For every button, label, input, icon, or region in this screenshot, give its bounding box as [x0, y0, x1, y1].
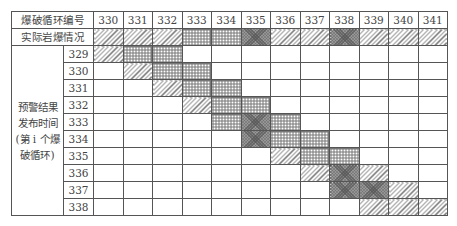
prediction-cell-empty — [359, 131, 389, 148]
row-label: 332 — [64, 97, 94, 114]
prediction-cell-square-grid — [212, 97, 242, 114]
prediction-cell-empty — [389, 148, 419, 165]
prediction-cell-empty — [359, 80, 389, 97]
prediction-cell-square-grid — [300, 131, 330, 148]
prediction-cell-empty — [418, 165, 448, 182]
prediction-cell-empty — [153, 97, 183, 114]
prediction-cell-empty — [330, 114, 360, 131]
prediction-row: 330 — [12, 63, 448, 80]
prediction-cell-empty — [330, 97, 360, 114]
column-header: 337 — [300, 12, 330, 29]
prediction-cell-dense-checker — [330, 165, 360, 182]
prediction-cell-empty — [182, 46, 212, 63]
prediction-cell-empty — [241, 63, 271, 80]
prediction-cell-dense-checker — [330, 182, 360, 199]
prediction-cell-empty — [271, 182, 301, 199]
prediction-cell-empty — [359, 46, 389, 63]
prediction-cell-empty — [94, 182, 124, 199]
prediction-cell-empty — [241, 199, 271, 216]
prediction-cell-dense-checker — [359, 182, 389, 199]
prediction-cell-empty — [271, 97, 301, 114]
rockburst-warning-table: 爆破循环编号 330331332333334335336337338339340… — [11, 11, 448, 216]
prediction-cell-empty — [123, 165, 153, 182]
column-header: 339 — [359, 12, 389, 29]
actual-cell-diagonal-hatch — [94, 29, 124, 46]
prediction-cell-empty — [389, 131, 419, 148]
prediction-cell-empty — [418, 63, 448, 80]
prediction-cell-empty — [418, 97, 448, 114]
column-header: 335 — [241, 12, 271, 29]
prediction-cell-dense-checker — [241, 131, 271, 148]
side-label-line: 预警结果 — [12, 99, 63, 115]
prediction-cell-empty — [300, 199, 330, 216]
prediction-cell-empty — [330, 199, 360, 216]
actual-cell-diagonal-hatch — [153, 29, 183, 46]
prediction-cell-diagonal-hatch — [418, 199, 448, 216]
prediction-cell-square-grid — [123, 46, 153, 63]
row-label: 331 — [64, 80, 94, 97]
prediction-cell-empty — [94, 80, 124, 97]
prediction-row: 332 — [12, 97, 448, 114]
prediction-cell-empty — [182, 165, 212, 182]
prediction-cell-empty — [94, 97, 124, 114]
prediction-row: 334 — [12, 131, 448, 148]
prediction-cell-empty — [389, 97, 419, 114]
prediction-cell-square-grid — [300, 148, 330, 165]
column-header: 338 — [330, 12, 360, 29]
prediction-cell-empty — [182, 148, 212, 165]
prediction-cell-diagonal-hatch — [359, 199, 389, 216]
prediction-cell-empty — [212, 131, 242, 148]
prediction-cell-diagonal-hatch — [300, 165, 330, 182]
prediction-cell-empty — [300, 46, 330, 63]
prediction-cell-empty — [359, 114, 389, 131]
prediction-cell-empty — [182, 199, 212, 216]
prediction-cell-square-grid — [330, 148, 360, 165]
prediction-cell-empty — [271, 165, 301, 182]
prediction-cell-empty — [123, 131, 153, 148]
prediction-cell-empty — [241, 148, 271, 165]
prediction-cell-empty — [241, 182, 271, 199]
side-label-line: 发布时间 — [12, 115, 63, 131]
prediction-cell-empty — [212, 199, 242, 216]
prediction-cell-empty — [271, 80, 301, 97]
column-header: 334 — [212, 12, 242, 29]
row-label: 333 — [64, 114, 94, 131]
actual-cell-dense-checker — [241, 29, 271, 46]
prediction-cell-diagonal-hatch — [153, 80, 183, 97]
prediction-cell-square-grid — [212, 80, 242, 97]
actual-label: 实际岩爆情况 — [12, 29, 94, 46]
prediction-cell-empty — [330, 63, 360, 80]
prediction-cell-square-grid — [182, 63, 212, 80]
row-label: 336 — [64, 165, 94, 182]
prediction-cell-empty — [123, 148, 153, 165]
prediction-cell-dense-checker — [241, 114, 271, 131]
actual-cell-diagonal-hatch — [418, 29, 448, 46]
prediction-cell-empty — [94, 131, 124, 148]
prediction-cell-empty — [182, 182, 212, 199]
side-label: 预警结果发布时间(第 i 个爆破循环) — [12, 46, 64, 216]
prediction-row: 338 — [12, 199, 448, 216]
prediction-cell-empty — [123, 97, 153, 114]
column-header: 332 — [153, 12, 183, 29]
prediction-cell-empty — [212, 46, 242, 63]
column-header: 333 — [182, 12, 212, 29]
prediction-cell-empty — [153, 131, 183, 148]
prediction-cell-empty — [300, 182, 330, 199]
prediction-cell-empty — [241, 46, 271, 63]
side-label-line: 破循环) — [12, 147, 63, 163]
prediction-cell-empty — [182, 131, 212, 148]
prediction-cell-diagonal-hatch — [271, 148, 301, 165]
prediction-cell-empty — [153, 114, 183, 131]
prediction-cell-empty — [212, 165, 242, 182]
prediction-cell-empty — [359, 97, 389, 114]
prediction-cell-square-grid — [241, 97, 271, 114]
row-label: 337 — [64, 182, 94, 199]
prediction-cell-empty — [271, 46, 301, 63]
prediction-cell-empty — [212, 63, 242, 80]
prediction-row: 335 — [12, 148, 448, 165]
prediction-cell-empty — [212, 182, 242, 199]
prediction-cell-empty — [153, 182, 183, 199]
prediction-cell-diagonal-hatch — [182, 97, 212, 114]
prediction-cell-empty — [418, 148, 448, 165]
prediction-cell-empty — [271, 199, 301, 216]
